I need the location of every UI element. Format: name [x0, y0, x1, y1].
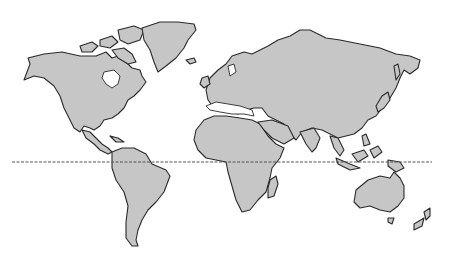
south-america [112, 148, 170, 246]
iceland [186, 58, 196, 64]
australia [354, 172, 404, 212]
philippines [362, 134, 370, 146]
tasmania [388, 218, 394, 224]
caribbean-islands [110, 136, 124, 142]
world-map [0, 0, 452, 263]
greenland [142, 22, 196, 72]
new-zealand [414, 208, 430, 230]
india [300, 128, 320, 152]
central-america [82, 130, 112, 154]
